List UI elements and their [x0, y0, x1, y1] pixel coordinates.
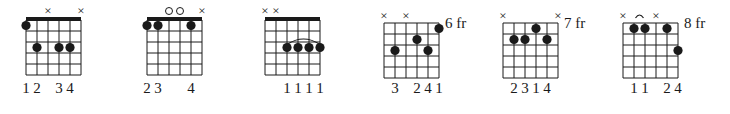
finger-number-label: 1: [305, 80, 313, 96]
finger-dot: [531, 24, 540, 33]
muted-string-icon: ×: [77, 3, 84, 18]
finger-number-label: 2: [33, 80, 41, 96]
finger-number-label: 1: [283, 80, 291, 96]
finger-dot: [315, 43, 324, 52]
finger-number-label: 2: [413, 80, 421, 96]
fret-position-label: 6 fr: [445, 15, 466, 31]
finger-dot: [423, 46, 432, 55]
muted-string-icon: ×: [380, 8, 387, 23]
finger-dot: [21, 21, 30, 30]
muted-string-icon: ×: [652, 8, 659, 23]
chord-diagram: ××1111: [261, 3, 324, 96]
finger-number-label: 2: [143, 80, 151, 96]
finger-dot: [629, 24, 638, 33]
chord-diagram: ××6 fr3241: [380, 8, 466, 96]
chord-diagram: ××7 fr2314: [499, 8, 585, 96]
fret-position-label: 8 fr: [684, 15, 705, 31]
chord-diagram: ××8 fr1124: [619, 8, 705, 96]
finger-dot: [65, 43, 74, 52]
finger-number-label: 1: [630, 80, 638, 96]
muted-string-icon: ×: [619, 8, 626, 23]
finger-number-label: 3: [154, 80, 162, 96]
finger-dot: [153, 21, 162, 30]
finger-dot: [434, 24, 443, 33]
finger-dot: [412, 35, 421, 44]
finger-dot: [673, 46, 682, 55]
barre-tie-icon: [636, 15, 644, 18]
muted-string-icon: ×: [272, 3, 279, 18]
muted-string-icon: ×: [198, 3, 205, 18]
chord-diagram-row: ××1234×234××1111××6 fr3241××7 fr2314××8 …: [0, 0, 730, 114]
finger-number-label: 4: [424, 80, 432, 96]
finger-dot: [293, 43, 302, 52]
finger-number-label: 4: [187, 80, 195, 96]
muted-string-icon: ×: [261, 3, 268, 18]
finger-dot: [542, 35, 551, 44]
muted-string-icon: ×: [499, 8, 506, 23]
finger-number-label: 1: [316, 80, 324, 96]
chord-diagram: ××1234: [21, 3, 84, 96]
muted-string-icon: ×: [44, 3, 51, 18]
finger-number-label: 4: [66, 80, 74, 96]
finger-number-label: 3: [521, 80, 529, 96]
finger-number-label: 4: [543, 80, 551, 96]
finger-number-label: 1: [294, 80, 302, 96]
finger-number-label: 4: [674, 80, 682, 96]
finger-number-label: 1: [435, 80, 443, 96]
finger-number-label: 1: [22, 80, 30, 96]
finger-number-label: 3: [55, 80, 63, 96]
chord-diagram: ×234: [142, 3, 205, 96]
finger-dot: [186, 21, 195, 30]
finger-dot: [304, 43, 313, 52]
finger-dot: [640, 24, 649, 33]
fret-position-label: 7 fr: [564, 15, 585, 31]
muted-string-icon: ×: [554, 8, 561, 23]
finger-dot: [509, 35, 518, 44]
finger-number-label: 2: [663, 80, 671, 96]
finger-dot: [54, 43, 63, 52]
finger-dot: [32, 43, 41, 52]
open-string-icon: [166, 8, 173, 15]
finger-dot: [142, 21, 151, 30]
finger-number-label: 1: [532, 80, 540, 96]
finger-number-label: 2: [510, 80, 518, 96]
finger-number-label: 3: [391, 80, 399, 96]
muted-string-icon: ×: [402, 8, 409, 23]
finger-dot: [520, 35, 529, 44]
finger-dot: [662, 24, 671, 33]
finger-dot: [282, 43, 291, 52]
nut-bar: [26, 17, 81, 21]
open-string-icon: [177, 8, 184, 15]
finger-dot: [390, 46, 399, 55]
nut-bar: [147, 17, 202, 21]
finger-number-label: 1: [641, 80, 649, 96]
